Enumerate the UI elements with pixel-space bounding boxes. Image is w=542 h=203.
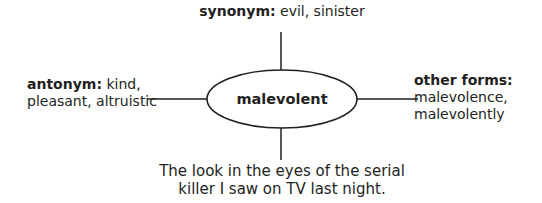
other-forms-line2: malevolently (414, 106, 513, 123)
synonym-heading: synonym: (199, 3, 275, 19)
synonym-label: synonym: evil, sinister (0, 3, 542, 20)
word-map-diagram: malevolent synonym: evil, sinister anton… (0, 0, 542, 203)
antonym-label: antonym: kind, pleasant, altruistic (27, 76, 157, 110)
example-line2: killer I saw on TV last night. (0, 180, 542, 198)
example-sentence: The look in the eyes of the serial kille… (0, 162, 542, 198)
other-forms-label: other forms: malevolence, malevolently (414, 72, 513, 123)
other-forms-heading: other forms: (414, 72, 513, 88)
antonym-heading: antonym: (27, 76, 102, 92)
example-line1: The look in the eyes of the serial (0, 162, 542, 180)
center-word: malevolent (207, 70, 357, 128)
synonym-text: evil, sinister (276, 3, 365, 19)
antonym-text-line2: pleasant, altruistic (27, 93, 157, 110)
antonym-text-line1: kind, (102, 76, 141, 92)
other-forms-line1: malevolence, (414, 89, 513, 106)
